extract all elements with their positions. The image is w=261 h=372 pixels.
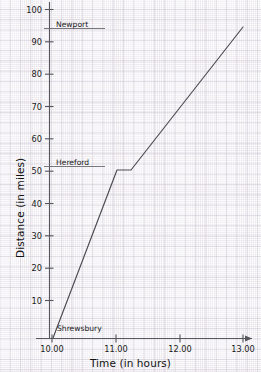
y-tick-label-60: 60 — [18, 135, 42, 143]
x-axis-arrow-icon — [245, 336, 252, 342]
annotation-hereford: Hereford — [56, 159, 89, 167]
y-tick-label-90: 90 — [18, 38, 42, 46]
y-tick-label-80: 80 — [18, 70, 42, 78]
y-tick-label-100: 100 — [18, 6, 42, 14]
graph-paper-canvas: 100 90 80 70 60 50 40 30 20 10 10.00 11.… — [0, 0, 261, 372]
x-tick-label-1200: 12.00 — [160, 345, 200, 353]
travel-graph-plot — [0, 0, 261, 372]
x-tick-label-1300: 13.00 — [223, 345, 261, 353]
y-axis-title: Distance (in miles) — [14, 158, 26, 258]
journey-line — [53, 27, 243, 338]
x-tick-label-1100: 11.00 — [96, 345, 136, 353]
y-tick-label-10: 10 — [18, 297, 42, 305]
y-tick-label-70: 70 — [18, 103, 42, 111]
y-tick-label-20: 20 — [18, 264, 42, 272]
x-tick-label-1000: 10.00 — [32, 345, 72, 353]
annotation-newport: Newport — [56, 21, 88, 29]
x-axis-title: Time (in hours) — [0, 357, 261, 369]
annotation-shrewsbury: Shrewsbury — [57, 325, 102, 333]
